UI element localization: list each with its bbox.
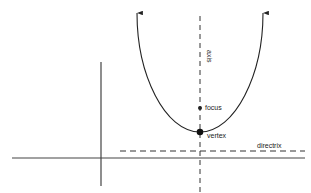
focus-label: focus	[205, 104, 222, 111]
focus-point	[198, 106, 202, 110]
parabola-diagram: axis focus vertex directrix	[0, 0, 311, 193]
vertex-point	[197, 129, 204, 136]
axis-label: axis	[206, 50, 213, 63]
vertex-label: vertex	[207, 132, 227, 139]
directrix-label: directrix	[257, 142, 282, 149]
